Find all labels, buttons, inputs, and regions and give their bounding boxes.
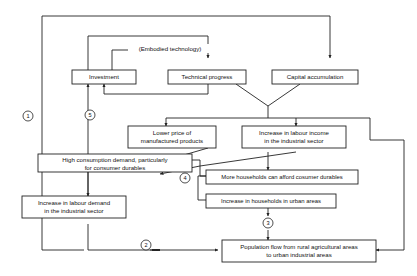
connector-technical-to-investment xyxy=(104,84,208,94)
node-lower-price-label-line1: Lower price of xyxy=(153,129,192,136)
node-urban-households[interactable]: Increase in households in urban areas xyxy=(206,194,336,208)
marker-3-label: 3 xyxy=(266,220,269,226)
node-more-households[interactable]: More households can afford cosumer durab… xyxy=(206,170,358,184)
marker-2: 2 xyxy=(141,240,151,250)
node-labour-income-label-line1: Increase in labour income xyxy=(259,129,329,136)
connector-consumption-bracket xyxy=(192,160,206,176)
node-lower-price-label-line2: manufactured products xyxy=(141,137,203,144)
node-labour-demand-label-line2: in the industrial sector xyxy=(44,207,103,214)
node-lower-price[interactable]: Lower price of manufactured products xyxy=(128,126,216,148)
marker-1-label: 1 xyxy=(26,113,29,119)
connector-right-bus-to-population xyxy=(370,140,404,250)
node-high-consumption[interactable]: High consumption demand, particularly fo… xyxy=(38,154,192,172)
annotation-embodied-technology: (Embodied technology) xyxy=(128,44,212,53)
node-investment[interactable]: Investment xyxy=(72,70,136,84)
marker-5: 5 xyxy=(85,110,95,120)
node-labour-income-label-line2: in the industrial sector xyxy=(264,137,323,144)
node-technical-progress-label: Technical progress xyxy=(182,73,233,80)
node-investment-label: Investment xyxy=(89,73,119,80)
node-capital-accumulation[interactable]: Capital accumulation xyxy=(272,70,358,84)
node-high-consumption-label-line2: for consumer durables xyxy=(85,164,146,171)
connector-technical-to-fork xyxy=(236,84,268,106)
marker-3: 3 xyxy=(263,218,273,228)
flow-diagram-canvas: Investment Technical progress Capital ac… xyxy=(0,0,417,276)
marker-4: 4 xyxy=(180,173,190,183)
node-labour-income[interactable]: Increase in labour income in the industr… xyxy=(242,126,346,148)
node-technical-progress[interactable]: Technical progress xyxy=(168,70,246,84)
node-labour-demand-label-line1: Increase in labour demand xyxy=(38,199,110,206)
node-labour-demand[interactable]: Increase in labour demand in the industr… xyxy=(22,196,126,218)
flow-diagram: Investment Technical progress Capital ac… xyxy=(0,0,417,276)
marker-4-label: 4 xyxy=(183,175,186,181)
node-population-flow[interactable]: Population flow from rural agricultural … xyxy=(222,240,376,262)
node-capital-accumulation-label: Capital accumulation xyxy=(287,73,344,80)
node-population-flow-label-line2: to urban industrial areas xyxy=(266,251,331,258)
connector-capital-to-fork xyxy=(268,84,300,106)
marker-1: 1 xyxy=(23,111,33,121)
node-urban-households-label: Increase in households in urban areas xyxy=(221,198,321,204)
node-population-flow-label-line1: Population flow from rural agricultural … xyxy=(240,243,358,250)
marker-2-label: 2 xyxy=(144,242,147,248)
annotation-embodied-technology-label: (Embodied technology) xyxy=(139,45,202,52)
connector-labour-income-to-consumption-a xyxy=(200,152,296,166)
connector-households-bracket xyxy=(198,176,206,200)
node-more-households-label: More households can afford cosumer durab… xyxy=(221,174,342,180)
node-high-consumption-label-line1: High consumption demand, particularly xyxy=(62,156,168,163)
marker-5-label: 5 xyxy=(88,112,91,118)
